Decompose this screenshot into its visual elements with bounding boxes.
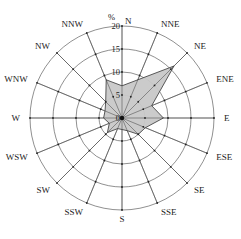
tick-marker bbox=[185, 144, 187, 146]
tick-marker bbox=[86, 202, 88, 204]
tick-marker bbox=[121, 186, 123, 188]
tick-marker bbox=[100, 108, 102, 110]
tick-marker bbox=[139, 75, 141, 77]
radial-tick-15: 15 bbox=[112, 44, 121, 54]
tick-marker bbox=[167, 117, 169, 119]
tick-marker bbox=[190, 117, 192, 119]
tick-marker bbox=[98, 117, 100, 119]
tick-marker bbox=[142, 126, 144, 128]
tick-marker bbox=[52, 117, 54, 119]
tick-marker bbox=[79, 135, 81, 137]
tick-marker bbox=[105, 101, 107, 103]
tick-marker bbox=[57, 91, 59, 93]
direction-label-sse: SSE bbox=[161, 207, 177, 217]
radial-tick-20: 20 bbox=[112, 21, 121, 31]
tick-marker bbox=[130, 96, 132, 98]
direction-label-ssw: SSW bbox=[64, 207, 83, 217]
tick-marker bbox=[137, 133, 139, 135]
tick-marker bbox=[170, 68, 172, 70]
radial-tick-10: 10 bbox=[112, 67, 121, 77]
direction-label-ene: ENE bbox=[216, 74, 234, 84]
tick-marker bbox=[156, 32, 158, 34]
tick-marker bbox=[36, 82, 38, 84]
tick-marker bbox=[130, 138, 132, 140]
tick-marker bbox=[89, 150, 91, 152]
tick-marker bbox=[56, 52, 58, 54]
tick-marker bbox=[56, 182, 58, 184]
radial-tick-0: 0 bbox=[116, 113, 120, 123]
tick-marker bbox=[186, 182, 188, 184]
tick-marker bbox=[121, 71, 123, 73]
direction-label-wsw: WSW bbox=[6, 152, 29, 162]
tick-marker bbox=[170, 166, 172, 168]
direction-label-s: S bbox=[119, 214, 124, 224]
tick-marker bbox=[206, 152, 208, 154]
tick-marker bbox=[86, 32, 88, 34]
tick-marker bbox=[72, 166, 74, 168]
tick-marker bbox=[121, 209, 123, 211]
tick-marker bbox=[72, 68, 74, 70]
tick-marker bbox=[154, 150, 156, 152]
tick-marker bbox=[57, 144, 59, 146]
tick-marker bbox=[79, 99, 81, 101]
tick-marker bbox=[121, 48, 123, 50]
tick-marker bbox=[142, 108, 144, 110]
tick-marker bbox=[186, 52, 188, 54]
direction-label-ese: ESE bbox=[216, 152, 233, 162]
tick-marker bbox=[95, 53, 97, 55]
tick-marker bbox=[89, 85, 91, 87]
direction-label-w: W bbox=[12, 113, 21, 123]
tick-marker bbox=[121, 140, 123, 142]
direction-label-e: E bbox=[224, 113, 230, 123]
wind-rose-chart: NNNENEENEEESESESSESSSWSWWSWWWNWNWNNW 051… bbox=[0, 0, 241, 239]
direction-label-ne: NE bbox=[194, 41, 206, 51]
tick-marker bbox=[206, 82, 208, 84]
direction-label-nw: NW bbox=[35, 41, 50, 51]
tick-marker bbox=[164, 135, 166, 137]
tick-marker bbox=[121, 94, 123, 96]
tick-marker bbox=[144, 117, 146, 119]
unit-label: % bbox=[108, 12, 115, 22]
tick-marker bbox=[164, 99, 166, 101]
tick-marker bbox=[185, 91, 187, 93]
tick-marker bbox=[121, 163, 123, 165]
tick-marker bbox=[213, 117, 215, 119]
direction-label-sw: SW bbox=[36, 185, 50, 195]
tick-marker bbox=[112, 138, 114, 140]
tick-marker bbox=[121, 25, 123, 27]
tick-marker bbox=[137, 101, 139, 103]
tick-marker bbox=[139, 160, 141, 162]
radial-tick-5: 5 bbox=[116, 90, 120, 100]
tick-marker bbox=[95, 181, 97, 183]
tick-marker bbox=[112, 96, 114, 98]
direction-label-se: SE bbox=[194, 185, 205, 195]
tick-marker bbox=[154, 85, 156, 87]
direction-label-nne: NNE bbox=[161, 19, 180, 29]
tick-marker bbox=[103, 160, 105, 162]
tick-marker bbox=[36, 152, 38, 154]
tick-marker bbox=[75, 117, 77, 119]
tick-marker bbox=[100, 126, 102, 128]
tick-marker bbox=[105, 133, 107, 135]
direction-label-nnw: NNW bbox=[62, 19, 84, 29]
tick-marker bbox=[148, 53, 150, 55]
direction-label-wnw: WNW bbox=[4, 74, 28, 84]
tick-marker bbox=[29, 117, 31, 119]
tick-marker bbox=[148, 181, 150, 183]
tick-marker bbox=[156, 202, 158, 204]
center-dot bbox=[120, 116, 124, 120]
tick-marker bbox=[103, 75, 105, 77]
direction-label-n: N bbox=[125, 16, 132, 26]
